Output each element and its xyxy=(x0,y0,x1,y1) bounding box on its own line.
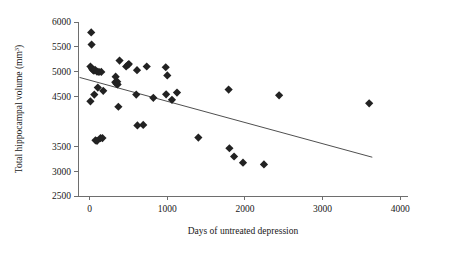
data-point xyxy=(162,90,170,98)
data-point xyxy=(365,99,373,107)
y-tick-label: 3500 xyxy=(52,142,71,152)
x-tick-label: 1000 xyxy=(158,204,177,214)
data-point xyxy=(168,96,176,104)
data-point xyxy=(87,28,95,36)
y-axis-title: Total hippocampal volume (mm3) xyxy=(13,45,25,173)
data-point xyxy=(90,90,98,98)
scatter-plot-figure: 2500300035004500500055006000010002000300… xyxy=(0,0,449,276)
data-point xyxy=(162,63,170,71)
data-point xyxy=(143,62,151,70)
x-tick-label: 4000 xyxy=(391,204,410,214)
y-tick-label: 2500 xyxy=(52,191,71,201)
x-tick-label: 3000 xyxy=(313,204,332,214)
data-point xyxy=(239,159,247,167)
x-axis-title: Days of untreated depression xyxy=(188,226,299,236)
data-point xyxy=(173,88,181,96)
plot-canvas: 2500300035004500500055006000010002000300… xyxy=(0,0,449,276)
x-tick-label: 2000 xyxy=(235,204,254,214)
y-tick-label: 6000 xyxy=(52,17,71,27)
data-point xyxy=(260,160,268,168)
data-point xyxy=(149,94,157,102)
y-tick-label: 3000 xyxy=(52,167,71,177)
y-tick-label: 4500 xyxy=(52,92,71,102)
data-point xyxy=(225,144,233,152)
data-point xyxy=(133,66,141,74)
data-point xyxy=(163,71,171,79)
x-tick-label: 0 xyxy=(87,204,92,214)
data-point xyxy=(230,152,238,160)
y-tick-label: 5000 xyxy=(52,67,71,77)
data-point xyxy=(87,41,95,49)
data-point xyxy=(194,133,202,141)
data-point xyxy=(115,56,123,64)
data-point xyxy=(275,91,283,99)
data-point xyxy=(225,86,233,94)
data-point xyxy=(114,103,122,111)
data-point xyxy=(139,121,147,129)
data-point xyxy=(86,97,94,105)
y-axis-title-text: Total hippocampal volume (mm3) xyxy=(13,45,25,173)
y-tick-label: 5500 xyxy=(52,42,71,52)
